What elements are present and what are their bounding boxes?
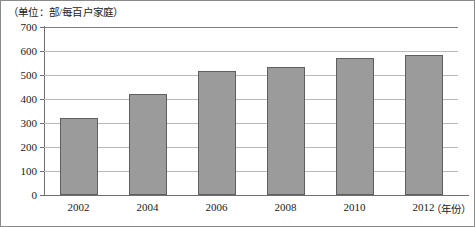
gridline: [44, 75, 458, 76]
y-axis-label: 300: [21, 117, 38, 129]
bar-chart-figure: （单位：部/每百户家庭） 0100200300400500600700 （年份）…: [0, 0, 475, 227]
y-axis-label: 600: [21, 45, 38, 57]
y-axis-label: 500: [21, 69, 38, 81]
bar-2004: [129, 94, 167, 195]
bar-2006: [198, 71, 236, 195]
bar-2002: [60, 118, 98, 195]
x-axis-label-2006: 2006: [187, 201, 247, 213]
y-axis-tick: [40, 99, 44, 100]
y-axis-tick: [40, 171, 44, 172]
gridline: [44, 99, 458, 100]
y-axis-tick: [40, 27, 44, 28]
y-axis-label: 100: [21, 165, 38, 177]
x-axis-line: [44, 195, 469, 196]
x-axis-label-2002: 2002: [49, 201, 109, 213]
gridline: [44, 51, 458, 52]
bar-2012: [405, 55, 443, 195]
bar-2008: [267, 67, 305, 195]
plot-area: 0100200300400500600700: [44, 27, 458, 195]
y-axis-tick: [40, 51, 44, 52]
y-axis-tick: [40, 123, 44, 124]
y-axis-label: 700: [21, 21, 38, 33]
y-axis-tick: [40, 75, 44, 76]
gridline: [44, 27, 458, 28]
y-axis-tick: [40, 195, 44, 196]
y-axis-label: 400: [21, 93, 38, 105]
gridline: [44, 147, 458, 148]
bar-2010: [336, 58, 374, 195]
y-axis-label: 0: [32, 189, 38, 201]
x-axis-label-2010: 2010: [325, 201, 385, 213]
gridline: [44, 171, 458, 172]
gridline: [44, 123, 458, 124]
x-axis-label-2012: 2012: [394, 201, 454, 213]
x-axis-label-2004: 2004: [118, 201, 178, 213]
x-axis-label-2008: 2008: [256, 201, 316, 213]
unit-caption: （单位：部/每百户家庭）: [8, 4, 123, 19]
y-axis-label: 200: [21, 141, 38, 153]
y-axis-tick: [40, 147, 44, 148]
